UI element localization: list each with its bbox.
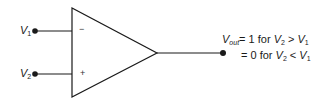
inverting-terminal-sign: −	[79, 24, 84, 34]
output-terminal	[220, 50, 226, 56]
output-condition-line-2: = 0 for V2 < V1	[241, 49, 311, 65]
op-amp-triangle	[72, 8, 157, 97]
label-v1: V1	[20, 24, 31, 40]
output-condition-line-1: Vout= 1 for V2 > V1	[222, 33, 309, 49]
input-terminal-v2	[32, 71, 38, 77]
label-v2: V2	[20, 67, 31, 83]
input-terminal-v1	[32, 28, 38, 34]
noninverting-terminal-sign: +	[80, 68, 85, 78]
